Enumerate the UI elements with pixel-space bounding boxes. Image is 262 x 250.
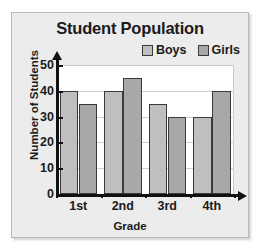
x-tick-label-1st: 1st bbox=[56, 199, 100, 213]
legend-label: Girls bbox=[212, 43, 241, 57]
x-tick-mark bbox=[234, 194, 236, 198]
x-tick-label-3rd: 3rd bbox=[145, 199, 189, 213]
bar-3rd-girls[interactable] bbox=[168, 117, 187, 194]
plot-area bbox=[56, 65, 234, 194]
legend-swatch-icon bbox=[198, 45, 209, 56]
y-tick-label: 30 bbox=[28, 110, 54, 124]
x-tick-mark bbox=[145, 194, 147, 198]
y-tick-mark bbox=[59, 91, 63, 93]
x-axis-arrow-icon bbox=[238, 191, 247, 201]
bar-4th-girls[interactable] bbox=[212, 91, 231, 194]
y-tick-mark bbox=[59, 194, 63, 196]
y-tick-label: 20 bbox=[28, 135, 54, 149]
bar-1st-girls[interactable] bbox=[79, 104, 98, 194]
x-tick-label-2nd: 2nd bbox=[101, 199, 145, 213]
y-axis-line bbox=[56, 59, 59, 194]
legend-swatch-icon bbox=[142, 45, 153, 56]
x-tick-label-4th: 4th bbox=[190, 199, 234, 213]
bar-4th-boys[interactable] bbox=[193, 117, 212, 194]
bar-3rd-boys[interactable] bbox=[149, 104, 168, 194]
y-tick-label: 40 bbox=[28, 84, 54, 98]
y-tick-label: 50 bbox=[28, 58, 54, 72]
legend-item-girls[interactable]: Girls bbox=[198, 43, 241, 57]
legend-item-boys[interactable]: Boys bbox=[142, 43, 187, 57]
chart-title: Student Population bbox=[12, 19, 248, 38]
y-tick-mark bbox=[59, 117, 63, 119]
legend-label: Boys bbox=[156, 43, 187, 57]
x-tick-mark bbox=[56, 194, 58, 198]
x-axis-title: Grade bbox=[12, 220, 248, 232]
y-tick-mark bbox=[59, 142, 63, 144]
bar-2nd-girls[interactable] bbox=[123, 78, 142, 194]
bar-2nd-boys[interactable] bbox=[104, 91, 123, 194]
gridline bbox=[56, 91, 234, 92]
y-tick-label: 0 bbox=[28, 187, 54, 201]
y-tick-mark bbox=[59, 65, 63, 67]
x-tick-mark bbox=[190, 194, 192, 198]
y-tick-mark bbox=[59, 168, 63, 170]
x-tick-mark bbox=[101, 194, 103, 198]
chart-figure: Student Population BoysGirls Number of S… bbox=[11, 12, 249, 238]
x-axis-line bbox=[56, 194, 240, 197]
y-tick-label: 10 bbox=[28, 161, 54, 175]
chart-legend: BoysGirls bbox=[142, 43, 240, 57]
